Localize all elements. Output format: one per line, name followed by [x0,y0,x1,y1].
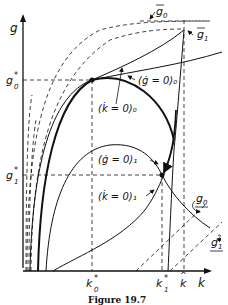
figure-caption: Figure 19.7 [88,295,146,305]
svg-text:g: g [6,74,13,87]
y-tick-labels: g * 0 g * 1 [6,71,19,186]
svg-text:1: 1 [218,243,222,251]
gbar1-label: g 1 [197,28,208,43]
svg-text:g: g [6,169,13,182]
saddle-paths [92,30,184,271]
svg-text:0: 0 [94,286,99,294]
svg-text:1: 1 [14,178,18,186]
svg-text:0: 0 [14,83,19,91]
svg-text:g: g [197,28,204,41]
svg-text:*: * [94,274,98,283]
svg-text:*: * [14,166,18,175]
x-axis-label: k [198,276,206,290]
svg-text:*: * [14,71,18,80]
kdot1-label: (k̇ = 0)₁ [98,190,137,202]
svg-text:^: ^ [180,271,187,280]
svg-text:g: g [211,236,218,249]
svg-text:*: * [164,274,168,283]
x-axis-arrow-icon [204,268,212,274]
svg-text:k: k [86,277,93,290]
svg-text:g: g [156,5,163,18]
svg-text:g: g [196,192,203,205]
svg-text:1: 1 [204,35,208,43]
y-axis-label: g [10,21,18,35]
equilibrium-1-point [160,173,165,178]
kdot0-label: (k̇ = 0)₀ [98,102,137,114]
svg-text:1: 1 [164,286,168,294]
gunder-lines [136,205,222,271]
phase-diagram: g k g * 0 g * 1 k * 0 k * 1 k ^ (ġ = 0)₀… [0,0,228,305]
svg-text:0: 0 [163,12,168,20]
gdot1-label: (ġ = 0)₁ [98,154,137,165]
y-axis-arrow-icon [20,14,26,22]
svg-text:0: 0 [203,199,208,207]
equilibrium-0-point [90,78,95,83]
gdot0-label: (ġ = 0)₀ [138,75,177,86]
svg-text:k: k [156,277,163,290]
gunder0-label: g 0 [195,192,208,207]
x-tick-labels: k * 0 k * 1 k ^ [86,271,187,294]
gbar0-label: g 0 [156,5,168,20]
axes [20,14,212,274]
gunder1-label: g 1 [210,236,223,251]
